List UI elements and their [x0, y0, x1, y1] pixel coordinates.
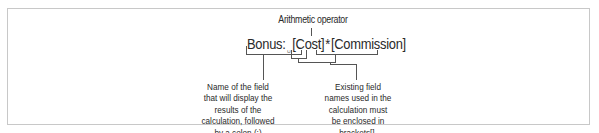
- field-names-annotation: Existing field names used in the calcula…: [311, 81, 406, 133]
- annotation-line: calculation, followed: [191, 115, 286, 126]
- field-name-bracket: [247, 46, 302, 54]
- annotation-line: Name of the field: [191, 81, 286, 92]
- annotation-line: be enclosed in: [311, 115, 406, 126]
- field-name-annotation: Name of the field that will display the …: [191, 81, 286, 133]
- field-names-pointer-line: [331, 62, 357, 80]
- annotation-line: results of the: [191, 104, 286, 115]
- annotation-line: Existing field: [311, 81, 406, 92]
- commission-bracket: [317, 50, 378, 54]
- annotation-line: that will display the: [191, 92, 286, 103]
- annotation-line: by a colon (:): [191, 127, 286, 133]
- annotation-line: brackets[].: [311, 127, 406, 133]
- annotation-line: calculation must: [311, 104, 406, 115]
- connector-lines: [0, 0, 599, 133]
- annotation-line: names used in the: [311, 92, 406, 103]
